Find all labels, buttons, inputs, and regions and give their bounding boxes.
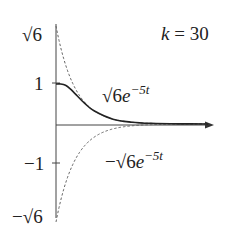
lower-envelope-curve — [56, 124, 208, 222]
chart: √6 1 −1 −√6 k = 30 √6e−5t −√6e−5t — [0, 0, 225, 231]
y-label-neg1: −1 — [24, 153, 44, 174]
y-label-neg-sqrt6: −√6 — [12, 206, 43, 227]
y-label-sqrt6: √6 — [22, 24, 42, 45]
upper-curve-label: √6e−5t — [102, 82, 150, 106]
x-axis-arrow-icon — [205, 122, 214, 129]
lower-curve-label: −√6e−5t — [105, 148, 163, 172]
y-label-1: 1 — [34, 73, 44, 94]
parameter-annotation: k = 30 — [161, 23, 209, 44]
